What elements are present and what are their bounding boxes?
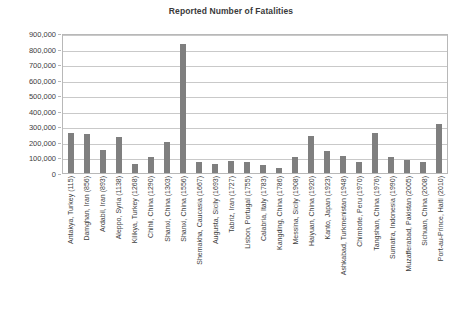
x-axis-tick-label: Shemakha, Caucasia (1667)	[195, 176, 202, 265]
bar[interactable]	[84, 134, 90, 173]
bar[interactable]	[68, 133, 74, 173]
y-axis-tick-mark	[58, 34, 61, 35]
y-axis-tick-mark	[58, 50, 61, 51]
y-axis-tick-label: 100,000	[29, 154, 56, 163]
x-axis-label-slot: Ardabil, Iran (893)	[99, 176, 105, 331]
x-axis-label-slot: Tangshan, China (1976)	[373, 176, 379, 331]
x-axis-label-slot: Tabriz, Iran (1727)	[228, 176, 234, 331]
bar[interactable]	[372, 133, 378, 173]
bar[interactable]	[148, 157, 154, 173]
x-axis-tick-label: Muzafferabad, Pakistan (2005)	[404, 176, 411, 272]
x-axis-tick-label: Haiyuan, China (1920)	[308, 176, 315, 246]
x-axis-label-slot: Damghan, Iran (856)	[83, 176, 89, 331]
bar[interactable]	[356, 162, 362, 173]
y-axis-tick-label: 200,000	[29, 138, 56, 147]
bar[interactable]	[276, 168, 282, 173]
y-axis-tick-mark	[58, 158, 61, 159]
bar[interactable]	[436, 124, 442, 173]
x-axis-label-slot: Muzafferabad, Pakistan (2005)	[405, 176, 411, 331]
y-axis-tick-mark	[58, 127, 61, 128]
x-axis-tick-label: Tangshan, China (1976)	[372, 176, 379, 251]
x-axis-tick-label: Ashkabad, Turkmenistan (1948)	[340, 176, 347, 275]
bar[interactable]	[228, 161, 234, 173]
x-axis-label-slot: Calabria, Italy (1783)	[260, 176, 266, 331]
x-axis-label-slot: Ashkabad, Turkmenistan (1948)	[340, 176, 346, 331]
bar[interactable]	[324, 151, 330, 173]
y-axis-tick-mark	[58, 81, 61, 82]
x-axis-tick-label: Messina, Sicily (1908)	[292, 176, 299, 244]
bar[interactable]	[340, 156, 346, 173]
x-axis-label-slot: Antakya, Turkey (115)	[67, 176, 73, 331]
bar[interactable]	[212, 164, 218, 173]
plot-area	[62, 34, 448, 174]
x-axis-label-slot: Kilikya, Turkey (1268)	[131, 176, 137, 331]
x-axis-label-slot: Lisbon, Portugal (1755)	[244, 176, 250, 331]
y-axis-tick-label: 600,000	[29, 76, 56, 85]
bar[interactable]	[132, 164, 138, 173]
x-axis-tick-label: Antakya, Turkey (115)	[67, 176, 74, 244]
y-axis: 900,000800,000700,000600,000500,000400,0…	[0, 34, 60, 174]
x-axis-label-slot: Shanxi, China (1303)	[164, 176, 170, 331]
x-axis-label-slot: Shanxi, China (1556)	[180, 176, 186, 331]
x-axis-label-slot: Augusta, Sicily (1693)	[212, 176, 218, 331]
x-axis-tick-label: Chimbote, Peru (1970)	[356, 176, 363, 247]
x-axis-tick-label: Lisbon, Portugal (1755)	[243, 176, 250, 249]
x-axis-tick-label: Tabriz, Iran (1727)	[227, 176, 234, 233]
x-axis-label-slot: Sichuan, China (2008)	[421, 176, 427, 331]
y-axis-tick-label: 0	[52, 170, 56, 179]
x-axis-label-slot: Messina, Sicily (1908)	[292, 176, 298, 331]
chart-container: Reported Number of Fatalities 900,000800…	[0, 0, 462, 331]
y-axis-tick-label: 900,000	[29, 30, 56, 39]
x-axis-tick-label: Kilikya, Turkey (1268)	[131, 176, 138, 243]
x-axis-label-slot: Chihli, China (1290)	[147, 176, 153, 331]
bar-series	[63, 35, 447, 173]
x-axis-label-slot: Kanto, Japan (1923)	[324, 176, 330, 331]
x-axis-label-slot: Port-au-Prince, Haiti (2010)	[437, 176, 443, 331]
x-axis-tick-label: Ardabil, Iran (893)	[99, 176, 106, 232]
chart-title: Reported Number of Fatalities	[0, 6, 462, 16]
bar[interactable]	[420, 162, 426, 173]
y-axis-tick-label: 500,000	[29, 92, 56, 101]
x-axis-label-slot: Haiyuan, China (1920)	[308, 176, 314, 331]
x-axis-label-slot: Shemakha, Caucasia (1667)	[196, 176, 202, 331]
x-axis-labels: Antakya, Turkey (115)Damghan, Iran (856)…	[62, 176, 448, 331]
x-axis-tick-label: Port-au-Prince, Haiti (2010)	[436, 176, 443, 261]
x-axis-label-slot: Sumatra, Indonesia (1990)	[389, 176, 395, 331]
bar[interactable]	[100, 150, 106, 173]
bar[interactable]	[260, 165, 266, 173]
bar[interactable]	[180, 44, 186, 173]
bar[interactable]	[292, 157, 298, 173]
y-axis-tick-label: 800,000	[29, 45, 56, 54]
bar[interactable]	[244, 162, 250, 173]
bar[interactable]	[196, 162, 202, 173]
bar[interactable]	[116, 137, 122, 173]
x-axis-tick-label: Sichuan, China (2008)	[420, 176, 427, 246]
y-axis-tick-mark	[58, 65, 61, 66]
x-axis-tick-label: Sumatra, Indonesia (1990)	[388, 176, 395, 259]
x-axis-tick-label: Kangding, China (1786)	[276, 176, 283, 250]
x-axis-tick-label: Chihli, China (1290)	[147, 176, 154, 238]
bar[interactable]	[308, 136, 314, 173]
x-axis-tick-label: Augusta, Sicily (1693)	[211, 176, 218, 244]
y-axis-tick-label: 300,000	[29, 123, 56, 132]
bar[interactable]	[404, 160, 410, 173]
y-axis-tick-mark	[58, 174, 61, 175]
x-axis-tick-label: Shanxi, China (1556)	[179, 176, 186, 242]
y-axis-tick-label: 400,000	[29, 107, 56, 116]
x-axis-label-slot: Aleppo, Syria (1138)	[115, 176, 121, 331]
y-axis-tick-mark	[58, 112, 61, 113]
x-axis-label-slot: Chimbote, Peru (1970)	[356, 176, 362, 331]
x-axis-label-slot: Kangding, China (1786)	[276, 176, 282, 331]
y-axis-tick-label: 700,000	[29, 61, 56, 70]
x-axis-tick-label: Aleppo, Syria (1138)	[115, 176, 122, 239]
y-axis-tick-mark	[58, 96, 61, 97]
x-axis-tick-label: Shanxi, China (1303)	[163, 176, 170, 242]
bar[interactable]	[164, 142, 170, 173]
x-axis-tick-label: Kanto, Japan (1923)	[324, 176, 331, 239]
y-axis-tick-mark	[58, 143, 61, 144]
x-axis-tick-label: Calabria, Italy (1783)	[259, 176, 266, 241]
bar[interactable]	[388, 157, 394, 173]
x-axis-tick-label: Damghan, Iran (856)	[83, 176, 90, 241]
